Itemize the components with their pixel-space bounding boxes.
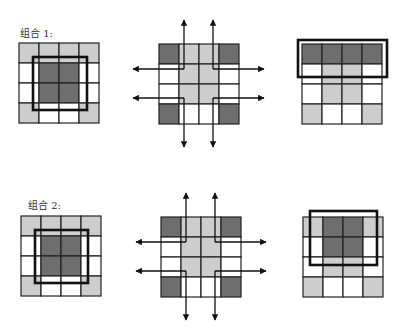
grid-cell: [342, 44, 362, 64]
center-grid: [133, 20, 264, 147]
grid-cell: [181, 277, 201, 297]
left-grid: [21, 216, 101, 296]
grid-cell: [323, 217, 343, 237]
group-2: [21, 193, 383, 320]
grid-cell: [59, 63, 79, 83]
grid-cell: [303, 237, 323, 257]
grid-cell: [362, 44, 382, 64]
grid-cell: [39, 83, 59, 103]
grid-cell: [181, 257, 201, 277]
grid-cell: [201, 277, 221, 297]
grid-cell: [59, 43, 79, 63]
grid-cell: [199, 104, 219, 124]
grid-cell: [21, 256, 41, 276]
grid-cell: [19, 83, 39, 103]
grid-cell: [302, 44, 322, 64]
grid-cell: [81, 216, 101, 236]
grid-cell: [363, 217, 383, 237]
grid-cell: [221, 257, 241, 277]
grid-cell: [79, 63, 99, 83]
grid-cell: [363, 257, 383, 277]
grid-cell: [323, 257, 343, 277]
grid-cell: [322, 104, 342, 124]
grid-cell: [59, 103, 79, 123]
grid-cell: [19, 63, 39, 83]
grid-cell: [322, 84, 342, 104]
group-1: [19, 20, 387, 147]
grid-cell: [342, 84, 362, 104]
grid-cell: [322, 44, 342, 64]
grid-cell: [303, 257, 323, 277]
grid-cell: [19, 43, 39, 63]
grid-cell: [41, 236, 61, 256]
grid-cell: [303, 277, 323, 297]
grid-cell: [322, 64, 342, 84]
grid-cell: [61, 256, 81, 276]
grid-cell: [21, 216, 41, 236]
grid-cell: [39, 63, 59, 83]
grid-cell: [362, 64, 382, 84]
grid-cell: [199, 84, 219, 104]
grid-cell: [303, 217, 323, 237]
center-grid: [136, 193, 266, 320]
grid-cell: [161, 237, 181, 257]
grid-cell: [363, 237, 383, 257]
grid-cell: [199, 64, 219, 84]
grid-cell: [323, 277, 343, 297]
grid-cell: [159, 104, 179, 124]
grid-cell: [39, 103, 59, 123]
right-grid: [303, 211, 383, 297]
grid-cell: [179, 84, 199, 104]
grid-cell: [181, 217, 201, 237]
grid-cell: [302, 84, 322, 104]
grid-cell: [41, 216, 61, 236]
diagram-canvas: [0, 0, 407, 333]
grid-cell: [59, 83, 79, 103]
grid-cell: [199, 44, 219, 64]
grid-cell: [159, 64, 179, 84]
grid-cell: [201, 257, 221, 277]
grid-cell: [179, 64, 199, 84]
grid-cell: [161, 277, 181, 297]
grid-cell: [302, 64, 322, 84]
grid-cell: [19, 103, 39, 123]
left-grid: [19, 43, 99, 123]
grid-cell: [323, 237, 343, 257]
grid-cell: [181, 237, 201, 257]
grid-cell: [81, 276, 101, 296]
grid-cell: [362, 104, 382, 124]
grid-cell: [219, 44, 239, 64]
grid-cell: [81, 256, 101, 276]
grid-cell: [159, 44, 179, 64]
grid-cell: [219, 64, 239, 84]
grid-cell: [79, 83, 99, 103]
grid-cell: [61, 276, 81, 296]
grid-cell: [161, 217, 181, 237]
grid-cell: [179, 44, 199, 64]
grid-cell: [41, 276, 61, 296]
grid-cell: [79, 43, 99, 63]
grid-cell: [61, 216, 81, 236]
grid-cell: [39, 43, 59, 63]
grid-cell: [221, 277, 241, 297]
grid-cell: [41, 256, 61, 276]
grid-cell: [201, 217, 221, 237]
grid-cell: [362, 84, 382, 104]
grid-cell: [302, 104, 322, 124]
right-grid: [298, 40, 387, 124]
grid-cell: [221, 217, 241, 237]
grid-cell: [21, 236, 41, 256]
grid-cell: [343, 257, 363, 277]
grid-cell: [343, 217, 363, 237]
grid-cell: [81, 236, 101, 256]
grid-cell: [179, 104, 199, 124]
grid-cell: [343, 237, 363, 257]
grid-cell: [201, 237, 221, 257]
grid-cell: [159, 84, 179, 104]
grid-cell: [219, 84, 239, 104]
grid-cell: [342, 64, 362, 84]
grid-cell: [21, 276, 41, 296]
grid-cell: [221, 237, 241, 257]
grid-cell: [79, 103, 99, 123]
grid-cell: [363, 277, 383, 297]
